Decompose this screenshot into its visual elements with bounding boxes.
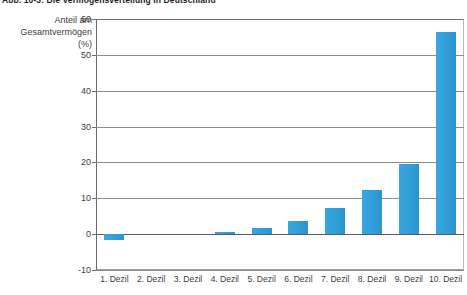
y-axis-caption-line-3: (%)	[0, 38, 92, 50]
x-axis-label-4: 4. Dezil	[211, 274, 239, 284]
x-axis-label-3: 3. Dezil	[174, 274, 202, 284]
y-tick-mark--10	[92, 270, 96, 271]
x-axis-labels: 1. Dezil2. Dezil3. Dezil4. Dezil5. Dezil…	[96, 274, 464, 292]
bar-7	[325, 208, 345, 234]
x-axis-label-6: 6. Dezil	[284, 274, 312, 284]
x-axis-label-2: 2. Dezil	[137, 274, 165, 284]
bar-1	[104, 234, 124, 240]
y-tick-label--10: -10	[78, 265, 91, 275]
gridline--10	[96, 270, 464, 271]
figure-container: Abb. 10-3: Die Vermögensverteilung in De…	[0, 0, 467, 295]
bar-5	[252, 228, 272, 234]
figure-title: Abb. 10-3: Die Vermögensverteilung in De…	[2, 0, 216, 5]
y-tick-label-0: 0	[86, 229, 91, 239]
y-axis-caption-line-2: Gesamtvermögen	[0, 26, 92, 38]
x-axis-label-9: 9. Dezil	[395, 274, 423, 284]
bar-6	[288, 221, 308, 235]
bar-9	[399, 164, 419, 234]
plot-area: -100102030405060	[96, 19, 464, 270]
y-tick-label-60: 60	[81, 14, 91, 24]
y-tick-label-10: 10	[81, 193, 91, 203]
x-axis-label-8: 8. Dezil	[358, 274, 386, 284]
x-axis-label-1: 1. Dezil	[100, 274, 128, 284]
bar-4	[215, 232, 235, 234]
y-tick-label-30: 30	[81, 122, 91, 132]
y-tick-label-20: 20	[81, 157, 91, 167]
x-axis-label-10: 10. Dezil	[429, 274, 462, 284]
y-axis-caption: Anteil am Gesamtvermögen (%)	[0, 14, 92, 51]
bar-8	[362, 190, 382, 234]
x-axis-label-5: 5. Dezil	[247, 274, 275, 284]
bar-10	[436, 32, 456, 235]
y-tick-label-50: 50	[81, 50, 91, 60]
y-axis-caption-line-1: Anteil am	[0, 14, 92, 26]
y-tick-label-40: 40	[81, 86, 91, 96]
bars-layer	[96, 19, 464, 270]
x-axis-label-7: 7. Dezil	[321, 274, 349, 284]
